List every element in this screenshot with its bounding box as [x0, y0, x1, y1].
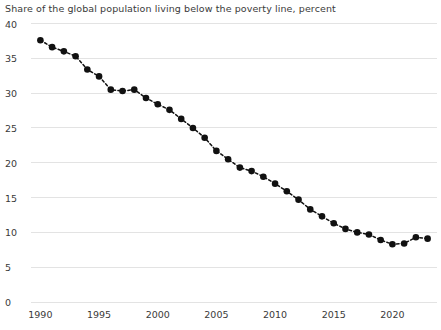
data-point: [413, 234, 420, 241]
x-tick-label-1995: 1995: [87, 309, 111, 320]
data-point: [49, 44, 56, 51]
x-tick-label-2000: 2000: [146, 309, 170, 320]
poverty-line-chart: Share of the global population living be…: [0, 0, 441, 330]
data-point: [260, 173, 267, 180]
data-point: [61, 48, 68, 55]
data-point: [354, 229, 361, 236]
data-point: [119, 88, 126, 95]
data-point: [272, 180, 279, 187]
y-tick-label-15: 15: [5, 192, 17, 203]
x-tick-label-2010: 2010: [263, 309, 287, 320]
y-tick-label-20: 20: [5, 157, 17, 168]
y-tick-label-30: 30: [5, 88, 17, 99]
data-point: [377, 237, 384, 244]
data-point: [201, 134, 208, 141]
data-point: [143, 95, 150, 102]
series-points-group: [37, 37, 431, 248]
data-point: [178, 116, 185, 123]
data-point: [72, 53, 79, 60]
data-point: [166, 107, 173, 114]
data-point: [225, 156, 232, 163]
y-tick-label-10: 10: [5, 227, 17, 238]
data-point: [237, 164, 244, 171]
data-point: [154, 101, 161, 108]
series-line: [40, 40, 427, 244]
x-tick-label-1990: 1990: [28, 309, 52, 320]
data-point: [319, 213, 326, 220]
data-point: [190, 125, 197, 132]
data-point: [213, 148, 220, 155]
data-point: [295, 196, 302, 203]
chart-canvas: [0, 0, 441, 330]
data-point: [248, 168, 255, 175]
data-point: [131, 86, 138, 93]
y-tick-label-40: 40: [5, 18, 17, 29]
y-tick-label-35: 35: [5, 53, 17, 64]
data-point: [389, 241, 396, 248]
data-point: [107, 86, 114, 93]
series-line-group: [40, 40, 427, 244]
y-tick-label-5: 5: [5, 262, 11, 273]
data-point: [84, 66, 91, 73]
data-point: [37, 37, 44, 44]
data-point: [284, 188, 291, 195]
data-point: [366, 231, 373, 238]
data-point: [342, 226, 349, 233]
y-tick-label-25: 25: [5, 122, 17, 133]
data-point: [96, 73, 103, 80]
x-tick-label-2005: 2005: [204, 309, 228, 320]
plot-area: 0510152025303540 19901995200020052010201…: [0, 0, 441, 330]
x-tick-label-2020: 2020: [380, 309, 404, 320]
data-point: [330, 220, 337, 227]
data-point: [401, 240, 408, 247]
y-tick-label-0: 0: [5, 297, 11, 308]
data-point: [307, 206, 314, 213]
x-tick-label-2015: 2015: [322, 309, 346, 320]
data-point: [424, 235, 431, 242]
